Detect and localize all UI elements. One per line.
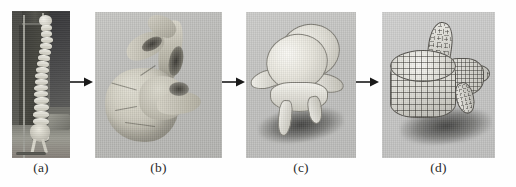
arrow-right-icon (70, 76, 94, 88)
caption-c: (c) (246, 160, 356, 176)
photo-floor-object (48, 114, 70, 130)
arrow-right-icon (222, 76, 246, 88)
figure-root: (a) (b) (0, 0, 516, 187)
photo-vertebra (33, 111, 49, 118)
arrow-a-to-b (70, 74, 94, 86)
arrow-right-icon (356, 76, 380, 88)
arrow-c-to-d (356, 74, 380, 86)
panel-b-raw-scan (95, 12, 222, 158)
caption-d: (d) (382, 160, 495, 176)
photo-stand-base (16, 152, 46, 155)
panel-a-spine-photograph (12, 11, 70, 158)
caption-a: (a) (12, 160, 70, 176)
panel-d-wireframe-mesh (382, 12, 495, 158)
arrow-b-to-c (222, 74, 246, 86)
caption-b: (b) (95, 160, 222, 176)
mesh-vertebral-body-endplate (390, 50, 456, 82)
photo-dark-background-right (50, 11, 70, 107)
photo-stand-pole (23, 15, 25, 158)
scan-cavity-shadow (169, 82, 189, 96)
mesh-grid-overlay (391, 51, 455, 81)
panel-c-smooth-model (246, 12, 356, 158)
